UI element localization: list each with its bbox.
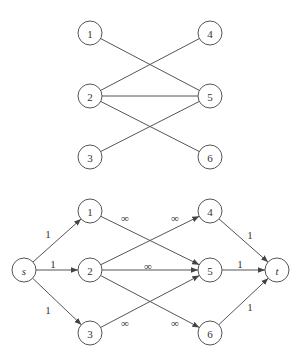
flow-node-6: 6 xyxy=(198,321,222,345)
flow-edge-s-1 xyxy=(33,219,81,262)
node-label: 3 xyxy=(87,328,93,340)
node-label: 5 xyxy=(207,91,213,103)
flow-node-1: 1 xyxy=(78,199,102,223)
diagram-svg: 123456 111∞∞∞∞∞111 s123456t xyxy=(0,0,300,364)
flow-capacity-label-2-6: ∞ xyxy=(171,317,179,329)
flow-capacity-label-4-t: 1 xyxy=(247,229,253,241)
node-label: 2 xyxy=(87,265,93,277)
flow-node-4: 4 xyxy=(198,199,222,223)
bipartite-flow-diagram: 123456 111∞∞∞∞∞111 s123456t xyxy=(0,0,300,364)
flow-edge-6-t xyxy=(219,278,269,325)
flow-edge-4-t xyxy=(219,219,268,262)
flow-node-t: t xyxy=(265,258,289,282)
node-label: 4 xyxy=(207,28,213,40)
flow-capacity-label-6-t: 1 xyxy=(247,301,253,313)
flow-capacity-label-s-3: 1 xyxy=(45,304,51,316)
node-label: 2 xyxy=(87,91,93,103)
node-label: s xyxy=(22,265,26,277)
flow-capacity-label-2-5: ∞ xyxy=(144,260,152,272)
bipartite-node-5: 5 xyxy=(198,84,222,108)
bipartite-node-2: 2 xyxy=(78,84,102,108)
flow-capacity-label-1-5: ∞ xyxy=(121,212,129,224)
flow-capacity-label-5-t: 1 xyxy=(237,258,243,270)
node-label: 5 xyxy=(207,265,213,277)
flow-node-s: s xyxy=(12,258,36,282)
node-label: 4 xyxy=(207,206,213,218)
node-label: 1 xyxy=(87,206,93,218)
node-label: 1 xyxy=(87,28,93,40)
bipartite-node-1: 1 xyxy=(78,21,102,45)
flow-capacity-label-3-5: ∞ xyxy=(121,317,129,329)
flow-node-3: 3 xyxy=(78,321,102,345)
top-graph-nodes: 123456 xyxy=(78,21,222,169)
top-graph-edges xyxy=(101,39,200,152)
bipartite-node-6: 6 xyxy=(198,145,222,169)
flow-capacity-label-s-1: 1 xyxy=(45,228,51,240)
node-label: 6 xyxy=(207,328,213,340)
node-label: 6 xyxy=(207,152,213,164)
flow-node-2: 2 xyxy=(78,258,102,282)
flow-edge-s-3 xyxy=(33,278,82,324)
flow-capacity-label-s-2: 1 xyxy=(50,258,56,270)
bipartite-node-4: 4 xyxy=(198,21,222,45)
flow-network-nodes: s123456t xyxy=(12,199,289,345)
flow-node-5: 5 xyxy=(198,258,222,282)
node-label: 3 xyxy=(87,152,93,164)
flow-capacity-label-2-4: ∞ xyxy=(171,212,179,224)
bipartite-node-3: 3 xyxy=(78,145,102,169)
